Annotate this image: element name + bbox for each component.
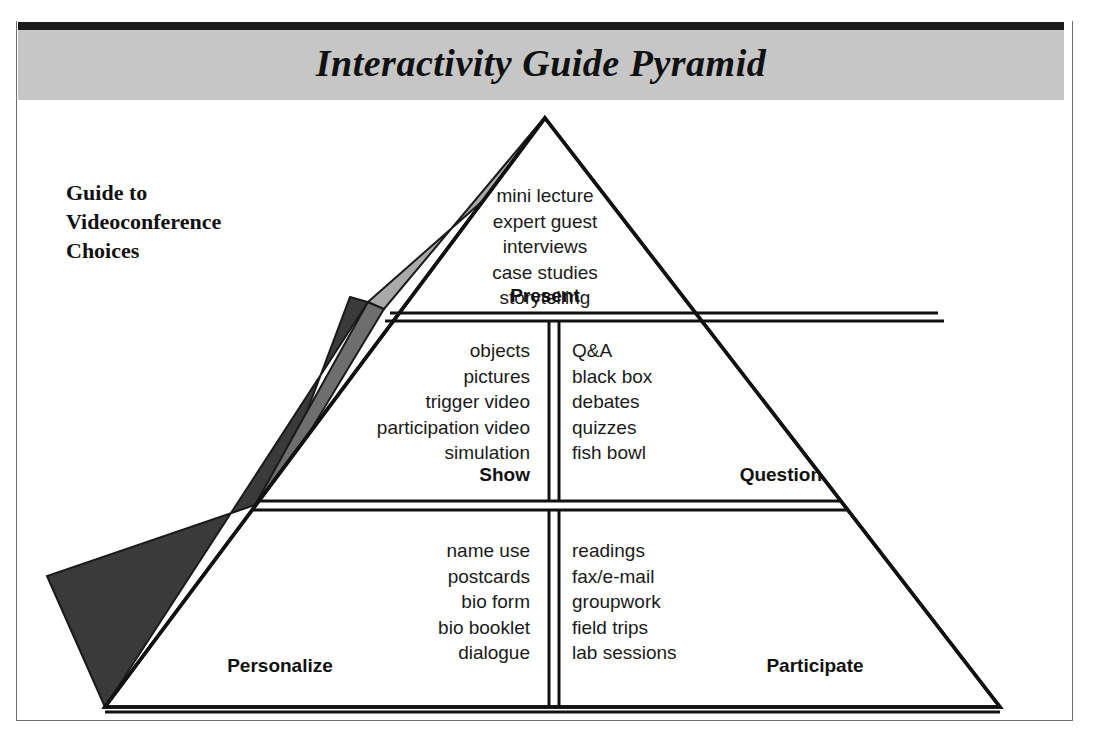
tier-participate-label: Participate	[700, 655, 930, 677]
tier-personalize-items: name use postcards bio form bio booklet …	[290, 538, 530, 666]
tier-show-label: Show	[290, 464, 530, 486]
list-item: interviews	[420, 234, 670, 260]
list-item: bio booklet	[290, 615, 530, 641]
list-item: participation video	[290, 415, 530, 441]
list-item: Q&A	[572, 338, 822, 364]
list-item: groupwork	[572, 589, 822, 615]
poster-page: Interactivity Guide Pyramid Guide to Vid…	[0, 0, 1095, 736]
list-item: expert guest	[420, 209, 670, 235]
list-item: postcards	[290, 564, 530, 590]
list-item: field trips	[572, 615, 822, 641]
list-item: quizzes	[572, 415, 822, 441]
tier-participate-items: readings fax/e-mail groupwork field trip…	[572, 538, 822, 666]
tier-present-label: Present	[420, 285, 670, 307]
list-item: debates	[572, 389, 822, 415]
tier-question-label: Question	[572, 464, 822, 486]
list-item: case studies	[420, 260, 670, 286]
list-item: objects	[290, 338, 530, 364]
list-item: black box	[572, 364, 822, 390]
list-item: simulation	[290, 440, 530, 466]
list-item: name use	[290, 538, 530, 564]
tier-question-items: Q&A black box debates quizzes fish bowl	[572, 338, 822, 466]
tier-personalize-label: Personalize	[170, 655, 390, 677]
tier-show-items: objects pictures trigger video participa…	[290, 338, 530, 466]
list-item: bio form	[290, 589, 530, 615]
list-item: mini lecture	[420, 183, 670, 209]
list-item: trigger video	[290, 389, 530, 415]
list-item: fish bowl	[572, 440, 822, 466]
list-item: readings	[572, 538, 822, 564]
list-item: fax/e-mail	[572, 564, 822, 590]
list-item: pictures	[290, 364, 530, 390]
pyramid-diagram	[0, 0, 1095, 736]
